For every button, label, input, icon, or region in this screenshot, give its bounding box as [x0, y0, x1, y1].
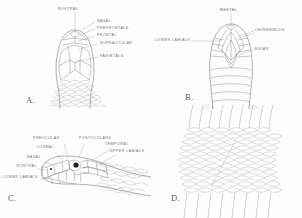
label-a-nasal: NASAL: [97, 20, 111, 24]
panel-a-letter: A.: [26, 95, 35, 105]
panel-c-body-scales: [97, 163, 151, 197]
panel-d-scale-mesh: [178, 128, 282, 193]
panel-c-letter: C.: [8, 193, 16, 203]
label-a-frontal: FRONTAL: [97, 34, 117, 38]
label-c-upper-labials: UPPER LABIALS: [110, 150, 144, 154]
panel-c-drawing: [0, 105, 151, 218]
panel-a-head-plates: [59, 32, 91, 81]
nostril-marking: [50, 168, 52, 170]
panel-d-lower-guides: [184, 193, 271, 218]
label-b-chinshields: CHINSHIELDS: [255, 29, 285, 33]
panel-d-scale-rows: D.: [151, 105, 302, 218]
label-a-parietals: PARIETALS: [100, 55, 124, 59]
panel-a-drawing: [0, 0, 151, 109]
panel-b-ventral-plates: [211, 68, 251, 102]
label-c-nasal: NASAL: [10, 156, 41, 160]
panel-b-letter: B.: [185, 92, 193, 102]
panel-b-chin-plates: [211, 26, 251, 69]
label-b-gular: GULAR: [254, 48, 269, 52]
label-c-preocular: PREOCULAR: [33, 137, 60, 141]
label-c-rostral: ROSTRAL: [4, 165, 37, 169]
label-b-mental: MENTAL: [220, 9, 237, 13]
eye-marking: [73, 162, 78, 167]
panel-d-letter: D.: [171, 193, 180, 203]
panel-c-lateral-head: PREOCULAR POSTOCULARS LOREAL TEMPORAL UP…: [0, 105, 151, 218]
label-c-postoculars: POSTOCULARS: [79, 137, 111, 141]
panel-b-ventral-head: MENTAL CHINSHIELDS LOWER LABIALS GULAR B…: [151, 0, 302, 109]
label-c-lower-labials: LOWER LABIALS: [0, 176, 38, 180]
label-a-supraocular: SUPRAOCULAR: [100, 42, 133, 46]
label-b-lower-labials: LOWER LABIALS: [155, 39, 189, 43]
panel-a-leader-lines: [75, 12, 98, 62]
panel-d-upper-guides: [189, 105, 273, 128]
label-c-temporal: TEMPORAL: [105, 143, 129, 147]
label-a-prefrontals: PREFRONTALS: [97, 27, 129, 31]
panel-b-drawing: [151, 0, 302, 109]
illustration-plate: ROSTRAL NASAL PREFRONTALS FRONTAL SUPRAO…: [0, 0, 302, 218]
label-c-loreal: LOREAL: [22, 146, 54, 150]
panel-a-dorsal-head: ROSTRAL NASAL PREFRONTALS FRONTAL SUPRAO…: [0, 0, 151, 109]
label-a-rostral: ROSTRAL: [58, 8, 78, 12]
